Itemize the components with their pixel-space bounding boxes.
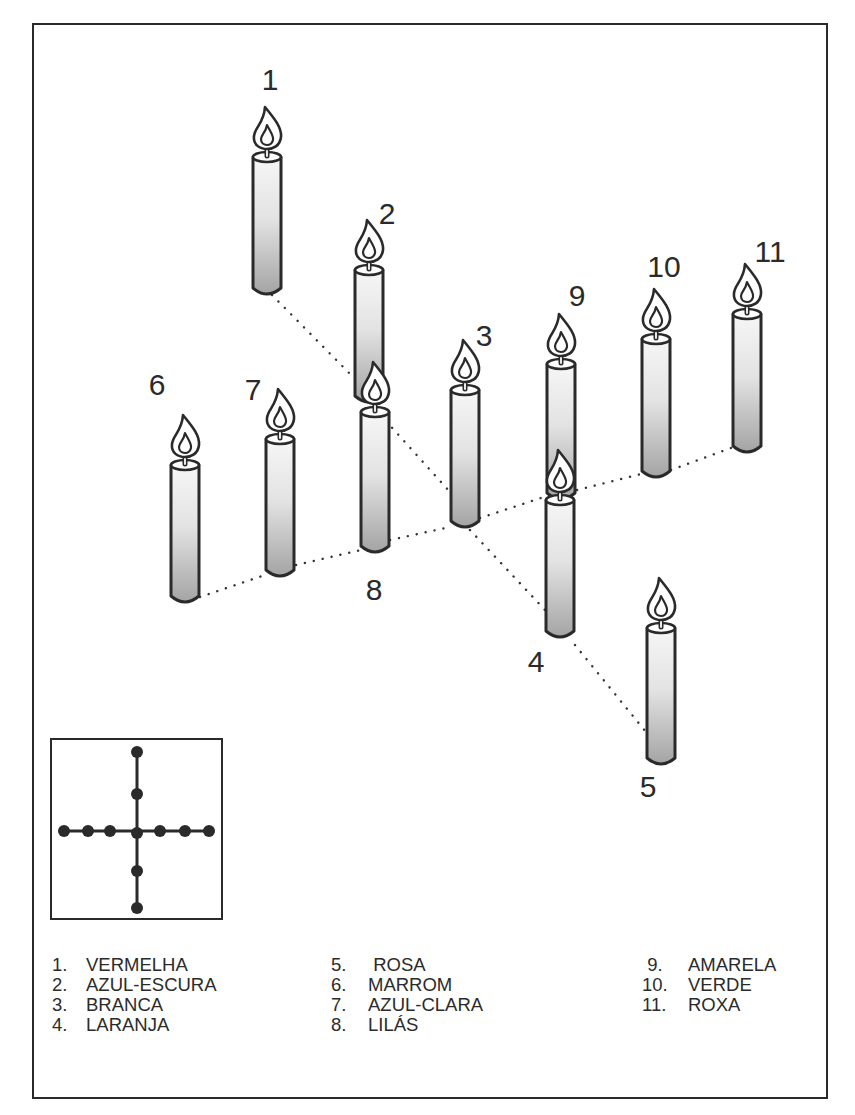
candle-number-label: 3: [476, 319, 493, 352]
dotted-guide-line: [671, 448, 731, 470]
candle-body: [647, 628, 675, 764]
dotted-guide-line: [575, 645, 646, 732]
candle-position-dot: [131, 827, 143, 839]
candle-diagram: 1291011387645: [0, 0, 855, 1115]
candle-10: [642, 289, 670, 477]
candle-position-dot: [203, 825, 215, 837]
candle-body: [546, 500, 574, 637]
candle-body: [361, 412, 389, 552]
candle-body: [733, 314, 761, 452]
candle-body: [171, 465, 199, 602]
candle-number-label: 4: [528, 645, 545, 678]
dotted-guide-line: [470, 530, 545, 610]
candle-number-label: 2: [379, 197, 396, 230]
candle-11: [733, 264, 761, 452]
legend-item: 4.LARANJA: [52, 1015, 217, 1035]
candle-3: [451, 340, 479, 527]
dotted-guide-line: [390, 527, 450, 540]
legend-item: 2.AZUL-ESCURA: [52, 975, 217, 995]
legend-item: 6.MARROM: [331, 975, 483, 995]
legend-item: 5. ROSA: [331, 955, 483, 975]
dotted-guide-line: [577, 474, 641, 490]
candle-number-label: 5: [640, 770, 657, 803]
legend-column-1: 1.VERMELHA 2.AZUL-ESCURA 3.BRANCA 4.LARA…: [52, 955, 217, 1035]
candles-group: [171, 107, 761, 764]
candle-number-label: 9: [569, 279, 586, 312]
legend-item: 1.VERMELHA: [52, 955, 217, 975]
candle-position-dot: [58, 825, 70, 837]
candle-position-dot: [131, 902, 143, 914]
legend-item: 9.AMARELA: [642, 955, 776, 975]
candle-body: [451, 390, 479, 527]
layout-inset-box: [50, 738, 223, 920]
candle-number-label: 11: [754, 235, 785, 268]
candle-4: [546, 450, 574, 637]
candle-position-dot: [82, 825, 94, 837]
cross-layout-icon: [52, 740, 225, 922]
candle-number-label: 6: [149, 368, 166, 401]
legend-item: 10.VERDE: [642, 975, 776, 995]
candle-body: [253, 157, 281, 294]
candle-position-dot: [131, 746, 143, 758]
candle-position-dot: [179, 825, 191, 837]
legend-column-2: 5. ROSA 6.MARROM 7.AZUL-CLARA 8.LILÁS: [331, 955, 483, 1035]
candle-8: [361, 362, 389, 552]
candle-body: [642, 339, 670, 477]
candle-position-dot: [131, 865, 143, 877]
candle-position-dot: [104, 825, 116, 837]
candle-body: [266, 439, 294, 576]
candle-6: [171, 415, 199, 602]
dotted-guide-line: [386, 421, 450, 492]
candle-5: [647, 578, 675, 764]
legend-item: 11.ROXA: [642, 995, 776, 1015]
legend-item: 3.BRANCA: [52, 995, 217, 1015]
candle-position-dot: [154, 825, 166, 837]
candle-position-dot: [131, 788, 143, 800]
candle-7: [266, 389, 294, 576]
legend-column-3: 9.AMARELA 10.VERDE 11.ROXA: [642, 955, 776, 1015]
candle-number-label: 7: [245, 373, 262, 406]
dotted-guide-line: [480, 496, 547, 518]
dotted-guide-line: [200, 575, 265, 597]
dotted-guide-line: [272, 295, 360, 384]
dotted-guide-line: [296, 550, 361, 565]
color-legend: 1.VERMELHA 2.AZUL-ESCURA 3.BRANCA 4.LARA…: [52, 955, 812, 1085]
legend-item: 7.AZUL-CLARA: [331, 995, 483, 1015]
candle-1: [253, 107, 281, 294]
candle-number-label: 1: [262, 63, 279, 96]
candle-number-label: 8: [366, 573, 383, 606]
candle-number-label: 10: [647, 250, 680, 283]
legend-item: 8.LILÁS: [331, 1015, 483, 1035]
